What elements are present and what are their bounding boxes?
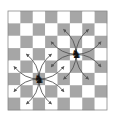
- dark-square: [70, 11, 83, 24]
- dark-square: [20, 61, 33, 74]
- dark-square: [95, 11, 108, 24]
- light-square: [95, 98, 108, 111]
- knight-icon: ♞: [34, 72, 45, 86]
- light-square: [70, 98, 83, 111]
- light-square: [58, 36, 71, 49]
- dark-square: [8, 98, 21, 111]
- dark-square: [8, 48, 21, 61]
- dark-square: [45, 11, 58, 24]
- dark-square: [20, 85, 33, 98]
- light-square: [20, 23, 33, 36]
- light-square: [8, 36, 21, 49]
- dark-square: [20, 36, 33, 49]
- dark-square: [33, 23, 46, 36]
- dark-square: [45, 85, 58, 98]
- light-square: [82, 61, 95, 74]
- light-square: [95, 48, 108, 61]
- light-square: [82, 11, 95, 24]
- dark-square: [95, 85, 108, 98]
- dark-square: [58, 98, 71, 111]
- light-square: [70, 73, 83, 86]
- light-square: [82, 36, 95, 49]
- dark-square: [8, 23, 21, 36]
- light-square: [33, 11, 46, 24]
- dark-square: [33, 98, 46, 111]
- light-square: [33, 36, 46, 49]
- light-square: [45, 23, 58, 36]
- light-square: [8, 11, 21, 24]
- light-square: [58, 11, 71, 24]
- light-square: [82, 85, 95, 98]
- dark-square: [8, 73, 21, 86]
- dark-square: [82, 98, 95, 111]
- light-square: [95, 73, 108, 86]
- light-square: [95, 23, 108, 36]
- dark-square: [33, 48, 46, 61]
- dark-square: [20, 11, 33, 24]
- light-square: [70, 23, 83, 36]
- knight-icon: ♞: [71, 47, 82, 61]
- dark-square: [70, 85, 83, 98]
- knight-moves-diagram: ♞♞: [0, 0, 115, 116]
